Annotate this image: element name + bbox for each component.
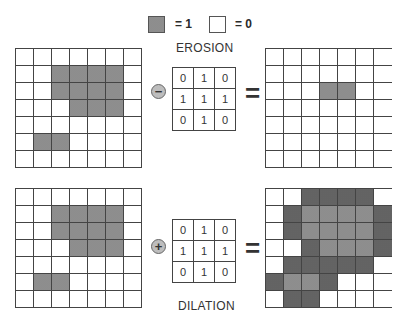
grid-cell [52, 151, 70, 168]
grid-cell [338, 66, 356, 83]
grid-cell [16, 291, 34, 308]
grid-cell [16, 240, 34, 257]
grid-cell [284, 100, 302, 117]
grid-cell [356, 257, 374, 274]
grid-cell [302, 151, 320, 168]
grid-cell [124, 257, 142, 274]
grid-cell [374, 100, 392, 117]
grid-cell [320, 291, 338, 308]
grid-cell [88, 240, 106, 257]
grid-cell [34, 66, 52, 83]
grid-cell [124, 117, 142, 134]
grid-cell [266, 134, 284, 151]
grid-cell [70, 257, 88, 274]
grid-cell [70, 240, 88, 257]
grid-cell [52, 189, 70, 206]
grid-cell [70, 206, 88, 223]
grid-cell [124, 240, 142, 257]
grid-cell [34, 274, 52, 291]
grid-cell [52, 49, 70, 66]
minus-circle-icon: − [151, 84, 166, 99]
grid-cell [266, 66, 284, 83]
grid-cell [338, 134, 356, 151]
grid-cell [124, 223, 142, 240]
grid-cell [284, 151, 302, 168]
grid-cell [356, 134, 374, 151]
kernel-cell: 1 [215, 241, 236, 262]
grid-cell [320, 189, 338, 206]
grid-cell [34, 257, 52, 274]
grid-cell [124, 274, 142, 291]
kernel-cell: 1 [215, 89, 236, 110]
grid-cell [320, 83, 338, 100]
grid-cell [302, 83, 320, 100]
grid-cell [106, 257, 124, 274]
kernel-cell: 0 [173, 68, 194, 89]
grid-cell [320, 49, 338, 66]
dilation-title: DILATION [178, 299, 235, 313]
grid-cell [284, 223, 302, 240]
grid-cell [302, 240, 320, 257]
grid-cell [106, 134, 124, 151]
grid-cell [52, 240, 70, 257]
grid-cell [34, 291, 52, 308]
grid-cell [284, 189, 302, 206]
grid-cell [338, 49, 356, 66]
grid-cell [106, 117, 124, 134]
grid-cell [356, 151, 374, 168]
grid-cell [374, 291, 392, 308]
erosion-operator: − [155, 85, 163, 98]
grid-cell [302, 257, 320, 274]
grid-cell [124, 100, 142, 117]
grid-cell [16, 117, 34, 134]
grid-cell [320, 151, 338, 168]
grid-cell [338, 117, 356, 134]
grid-cell [338, 223, 356, 240]
grid-cell [52, 291, 70, 308]
grid-cell [88, 117, 106, 134]
dilation-structuring-element: 010111010 [172, 219, 236, 283]
grid-cell [106, 83, 124, 100]
grid-cell [88, 257, 106, 274]
kernel-cell: 0 [215, 220, 236, 241]
grid-cell [266, 100, 284, 117]
grid-cell [52, 66, 70, 83]
grid-cell [70, 100, 88, 117]
grid-cell [124, 83, 142, 100]
grid-cell [266, 274, 284, 291]
legend-off-swatch [209, 16, 226, 33]
grid-cell [106, 151, 124, 168]
grid-cell [16, 66, 34, 83]
grid-cell [356, 206, 374, 223]
legend-on-swatch [148, 16, 165, 33]
grid-cell [124, 151, 142, 168]
grid-cell [88, 134, 106, 151]
grid-cell [302, 100, 320, 117]
dilation-output-grid [265, 188, 392, 308]
grid-cell [70, 274, 88, 291]
grid-cell [338, 83, 356, 100]
grid-cell [16, 223, 34, 240]
grid-cell [34, 134, 52, 151]
grid-cell [266, 257, 284, 274]
grid-cell [374, 117, 392, 134]
grid-cell [320, 117, 338, 134]
grid-cell [320, 134, 338, 151]
grid-cell [106, 274, 124, 291]
grid-cell [106, 206, 124, 223]
grid-cell [320, 100, 338, 117]
grid-cell [52, 134, 70, 151]
dilation-input-grid [15, 188, 142, 308]
grid-cell [320, 66, 338, 83]
grid-cell [374, 151, 392, 168]
grid-cell [34, 223, 52, 240]
grid-cell [356, 117, 374, 134]
grid-cell [374, 49, 392, 66]
kernel-cell: 1 [194, 241, 215, 262]
kernel-cell: 0 [215, 110, 236, 131]
grid-cell [374, 257, 392, 274]
grid-cell [124, 291, 142, 308]
grid-cell [266, 240, 284, 257]
kernel-cell: 1 [173, 89, 194, 110]
grid-cell [284, 117, 302, 134]
